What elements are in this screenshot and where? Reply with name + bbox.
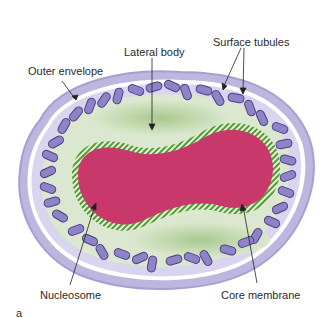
label-nucleosome: Nucleosome xyxy=(40,289,101,301)
label-outer-envelope: Outer envelope xyxy=(28,65,103,77)
label-surface-tubules: Surface tubules xyxy=(213,36,289,48)
label-core-membrane: Core membrane xyxy=(221,289,300,301)
label-lateral-body: Lateral body xyxy=(124,46,185,58)
panel-label: a xyxy=(16,307,22,318)
